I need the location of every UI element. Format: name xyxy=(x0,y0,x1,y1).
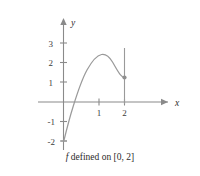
right-endpoint-dot xyxy=(122,75,126,79)
y-tick-label-neg1: -1 xyxy=(48,117,56,127)
function-graph-figure: 3 2 1 -1 -2 1 2 y x f defined on [0, 2] xyxy=(0,0,200,176)
y-tick-label-neg2: -2 xyxy=(48,137,56,147)
x-tick-label-1: 1 xyxy=(97,108,102,118)
y-tick-label-2: 2 xyxy=(49,58,54,68)
y-tick-label-3: 3 xyxy=(49,39,54,49)
function-curve xyxy=(64,54,125,141)
x-axis-label: x xyxy=(174,98,180,108)
y-tick-label-1: 1 xyxy=(49,78,54,88)
x-tick-label-2: 2 xyxy=(122,108,127,118)
plot-canvas: 3 2 1 -1 -2 1 2 y x xyxy=(0,0,200,176)
x-axis-arrowhead xyxy=(161,99,168,105)
y-axis-label: y xyxy=(70,18,76,28)
figure-caption: f defined on [0, 2] xyxy=(0,152,200,162)
caption-text: defined on [0, 2] xyxy=(68,152,134,162)
y-axis-arrowhead xyxy=(60,18,66,25)
